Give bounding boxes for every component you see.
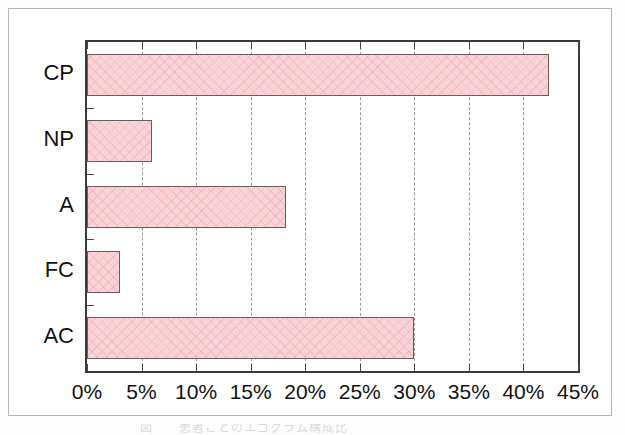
bar-ac xyxy=(87,317,414,359)
x-axis-label-5%: 5% xyxy=(126,379,156,405)
x-tick-bottom-45% xyxy=(578,364,579,371)
y-tick-2 xyxy=(87,174,94,175)
x-tick-bottom-40% xyxy=(523,364,524,371)
x-axis-label-30%: 30% xyxy=(393,379,435,405)
x-axis-label-35%: 35% xyxy=(448,379,490,405)
x-axis-label-0%: 0% xyxy=(72,379,102,405)
y-tick-1 xyxy=(87,108,94,109)
x-tick-top-35% xyxy=(469,42,470,49)
x-tick-bottom-0% xyxy=(87,364,88,371)
horizontal-bar-chart: CPNPAFCAC 0%5%10%15%20%25%30%35%40%45% xyxy=(0,0,625,435)
x-tick-bottom-5% xyxy=(142,364,143,371)
plot-inner xyxy=(87,42,578,371)
y-axis-label-fc: FC xyxy=(45,259,74,281)
bar-a xyxy=(87,186,286,228)
x-tick-bottom-25% xyxy=(360,364,361,371)
x-tick-top-40% xyxy=(523,42,524,49)
x-tick-bottom-15% xyxy=(251,364,252,371)
y-tick-3 xyxy=(87,239,94,240)
x-tick-top-30% xyxy=(414,42,415,49)
bar-fc xyxy=(87,251,120,293)
caption-remnant: 図 患者ごとのエゴグラム構成比 xyxy=(140,424,500,433)
x-tick-bottom-30% xyxy=(414,364,415,371)
plot-area xyxy=(85,40,580,373)
x-axis-label-10%: 10% xyxy=(175,379,217,405)
x-tick-top-5% xyxy=(142,42,143,49)
bar-cp xyxy=(87,54,549,96)
y-axis-label-cp: CP xyxy=(43,62,74,84)
x-tick-top-20% xyxy=(305,42,306,49)
y-tick-4 xyxy=(87,305,94,306)
y-axis-label-np: NP xyxy=(43,128,74,150)
x-tick-top-15% xyxy=(251,42,252,49)
bar-np xyxy=(87,120,152,162)
y-axis-category-labels: CPNPAFCAC xyxy=(0,40,74,373)
x-tick-bottom-20% xyxy=(305,364,306,371)
y-axis-label-a: A xyxy=(59,194,74,216)
x-axis-label-45%: 45% xyxy=(557,379,599,405)
y-axis-label-ac: AC xyxy=(43,325,74,347)
x-tick-top-0% xyxy=(87,42,88,49)
x-tick-bottom-35% xyxy=(469,364,470,371)
x-axis-label-25%: 25% xyxy=(339,379,381,405)
x-axis-label-20%: 20% xyxy=(284,379,326,405)
x-axis-label-15%: 15% xyxy=(230,379,272,405)
figure-container: CPNPAFCAC 0%5%10%15%20%25%30%35%40%45% 図… xyxy=(0,0,625,435)
x-axis-tick-labels: 0%5%10%15%20%25%30%35%40%45% xyxy=(85,379,580,407)
x-tick-top-25% xyxy=(360,42,361,49)
x-axis-label-40%: 40% xyxy=(502,379,544,405)
x-tick-top-10% xyxy=(196,42,197,49)
x-tick-top-45% xyxy=(578,42,579,49)
x-tick-bottom-10% xyxy=(196,364,197,371)
